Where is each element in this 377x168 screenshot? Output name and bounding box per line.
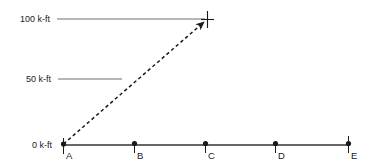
axis-label-50kft: 50 k-ft [26,74,52,84]
station-label-a: A [66,150,73,161]
station-label-c: C [208,150,215,161]
diagram-canvas: 100 k-ft 50 k-ft 0 k-ft A B [0,0,377,168]
diagram-background [0,0,377,168]
axis-label-100kft: 100 k-ft [20,14,51,24]
station-label-b: B [137,150,143,161]
station-label-d: D [278,150,285,161]
axis-label-0kft: 0 k-ft [32,140,53,150]
station-label-e: E [351,150,357,161]
elevation-trajectory-diagram: 100 k-ft 50 k-ft 0 k-ft A B [0,0,377,168]
